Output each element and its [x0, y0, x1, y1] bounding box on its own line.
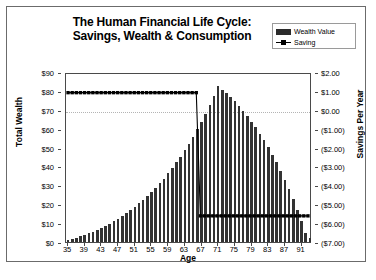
saving-marker [290, 214, 293, 217]
saving-marker [236, 214, 239, 217]
y-right-tick-label: $1.00 [321, 87, 340, 96]
y-right-tick-label: ($3.00) [321, 163, 345, 172]
saving-marker [104, 91, 107, 94]
saving-line [66, 74, 310, 242]
y-left-tick-mark [58, 149, 61, 150]
saving-marker [215, 214, 218, 217]
y-right-tick-mark [315, 205, 318, 206]
saving-marker [298, 214, 301, 217]
y-left-tick-mark [58, 186, 61, 187]
saving-marker [306, 214, 309, 217]
saving-marker [277, 214, 280, 217]
saving-marker [79, 91, 82, 94]
y-right-tick-label: ($6.00) [321, 220, 345, 229]
saving-marker [153, 91, 156, 94]
saving-marker [302, 214, 305, 217]
y-right-tick-mark [315, 92, 318, 93]
chart-title-line-2: Savings, Wealth & Consumption [47, 29, 277, 43]
saving-marker [66, 91, 69, 94]
legend-label-wealth-value: Wealth Value [294, 28, 335, 35]
saving-marker [174, 91, 177, 94]
saving-marker [248, 214, 251, 217]
legend-item-wealth-value: Wealth Value [276, 26, 353, 37]
saving-marker [203, 214, 206, 217]
saving-marker [286, 214, 289, 217]
y-right-tick-label: $0.00 [321, 106, 340, 115]
saving-marker [265, 214, 268, 217]
saving-marker [240, 214, 243, 217]
saving-line-path [68, 93, 308, 216]
saving-marker [252, 214, 255, 217]
saving-marker [91, 91, 94, 94]
y-right-tick-label: $2.00 [321, 69, 340, 78]
y-right-tick-label: ($2.00) [321, 144, 345, 153]
saving-marker [116, 91, 119, 94]
saving-marker [75, 91, 78, 94]
y-right-tick-mark [315, 73, 318, 74]
saving-marker [124, 91, 127, 94]
saving-marker [219, 214, 222, 217]
y-left-tick-mark [58, 243, 61, 244]
saving-marker [228, 214, 231, 217]
y-axis-right-ticks: ($7.00)($6.00)($5.00)($4.00)($3.00)($2.0… [315, 73, 359, 243]
saving-marker [112, 91, 115, 94]
y-axis-right-title: Savings Per Year [355, 76, 365, 172]
saving-marker [199, 214, 202, 217]
legend-item-saving: Saving [276, 37, 353, 48]
saving-marker [95, 91, 98, 94]
saving-marker [141, 91, 144, 94]
saving-marker [232, 214, 235, 217]
saving-marker [186, 91, 189, 94]
saving-marker [83, 91, 86, 94]
saving-marker [149, 91, 152, 94]
chart-legend: Wealth Value Saving [272, 23, 356, 49]
saving-marker [182, 91, 185, 94]
saving-marker [207, 214, 210, 217]
wealth-bar-swatch-icon [276, 29, 291, 35]
saving-marker [145, 91, 148, 94]
saving-marker [244, 214, 247, 217]
saving-marker [166, 91, 169, 94]
legend-label-saving: Saving [294, 39, 315, 46]
y-right-tick-label: ($7.00) [321, 239, 345, 248]
saving-marker [269, 214, 272, 217]
y-right-tick-label: ($4.00) [321, 182, 345, 191]
saving-marker [128, 91, 131, 94]
y-right-tick-mark [315, 111, 318, 112]
y-right-tick-mark [315, 149, 318, 150]
y-right-tick-mark [315, 224, 318, 225]
saving-marker [257, 214, 260, 217]
saving-marker [120, 91, 123, 94]
y-left-tick-label: $0 [46, 239, 54, 248]
y-axis-left-title: Total Wealth [14, 77, 24, 167]
y-left-tick-label: $70 [41, 106, 54, 115]
saving-marker [71, 91, 74, 94]
y-left-tick-mark [58, 205, 61, 206]
saving-marker [211, 214, 214, 217]
y-right-tick-mark [315, 130, 318, 131]
saving-marker [178, 91, 181, 94]
chart-title: The Human Financial Life Cycle: Savings,… [47, 15, 277, 43]
y-left-tick-label: $20 [41, 201, 54, 210]
chart-frame: The Human Financial Life Cycle: Savings,… [6, 6, 366, 262]
y-left-tick-label: $10 [41, 220, 54, 229]
saving-marker [224, 214, 227, 217]
saving-marker [87, 91, 90, 94]
saving-marker [195, 91, 198, 94]
plot-area [65, 73, 311, 243]
chart-title-line-1: The Human Financial Life Cycle: [47, 15, 277, 29]
y-left-tick-mark [58, 73, 61, 74]
saving-marker [261, 214, 264, 217]
x-axis-title: Age [65, 253, 311, 263]
saving-marker [294, 214, 297, 217]
y-left-tick-mark [58, 92, 61, 93]
saving-marker [190, 91, 193, 94]
y-left-tick-mark [58, 167, 61, 168]
y-right-tick-label: ($1.00) [321, 125, 345, 134]
y-right-tick-mark [315, 243, 318, 244]
saving-marker [108, 91, 111, 94]
saving-line-swatch-icon [276, 39, 291, 46]
saving-marker [133, 91, 136, 94]
saving-marker [157, 91, 160, 94]
y-left-tick-label: $40 [41, 163, 54, 172]
